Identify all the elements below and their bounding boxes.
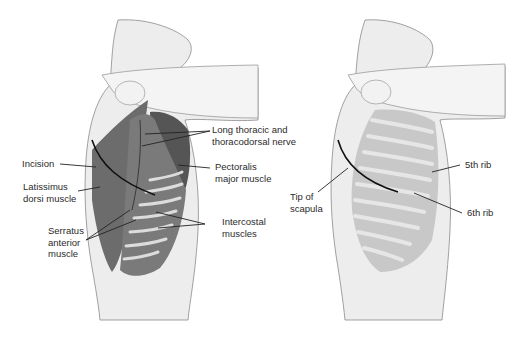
label-line: Latissimus: [23, 181, 76, 193]
label-line: Intercostal: [222, 216, 266, 228]
label-incision: Incision: [22, 158, 54, 170]
label-tip-of-scapula: Tip of scapula: [290, 191, 323, 214]
label-line: Incision: [22, 158, 54, 170]
label-line: 5th rib: [465, 159, 491, 171]
label-6th-rib: 6th rib: [467, 207, 493, 219]
label-line: muscles: [222, 228, 266, 240]
label-pectoralis-major: Pectoralis major muscle: [215, 161, 272, 184]
label-intercostal-muscles: Intercostal muscles: [222, 216, 266, 239]
label-line: Long thoracic and: [212, 124, 296, 136]
label-line: scapula: [290, 203, 323, 215]
label-latissimus-dorsi: Latissimus dorsi muscle: [23, 181, 76, 204]
label-line: anterior: [48, 237, 84, 249]
label-line: 6th rib: [467, 207, 493, 219]
label-line: muscle: [48, 248, 84, 260]
label-line: Serratus: [48, 225, 84, 237]
label-line: major muscle: [215, 173, 272, 185]
label-line: Pectoralis: [215, 161, 272, 173]
label-long-thoracic-nerve: Long thoracic and thoracodorsal nerve: [212, 124, 296, 147]
label-5th-rib: 5th rib: [465, 159, 491, 171]
label-line: Tip of: [290, 191, 323, 203]
label-serratus-anterior: Serratus anterior muscle: [48, 225, 84, 260]
label-line: dorsi muscle: [23, 193, 76, 205]
label-line: thoracodorsal nerve: [212, 136, 296, 148]
